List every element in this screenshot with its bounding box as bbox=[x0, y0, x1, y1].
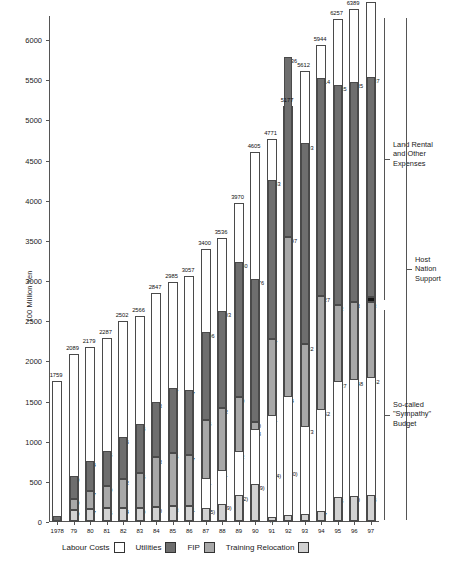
bar-total-label: 4605 bbox=[248, 144, 261, 150]
bar-segment-88-training[interactable] bbox=[218, 504, 226, 521]
bar-total-label: 1759 bbox=[50, 373, 63, 379]
bar-segment-89-fip[interactable] bbox=[235, 397, 243, 452]
bar-segment-84-training[interactable] bbox=[152, 507, 160, 521]
bar-segment-82-utilities[interactable] bbox=[119, 437, 127, 478]
bar-81[interactable] bbox=[102, 338, 112, 522]
bar-segment-85-fip[interactable] bbox=[169, 453, 177, 506]
bar-segment-87-fip[interactable] bbox=[202, 420, 210, 479]
x-tick-mark bbox=[272, 522, 273, 525]
bar-segment-95-training[interactable] bbox=[334, 497, 342, 521]
bar-segment-90-fip[interactable] bbox=[251, 422, 259, 430]
y-tick-label: 3000 bbox=[8, 277, 42, 286]
x-tick-mark bbox=[189, 522, 190, 525]
bar-segment-1978-utilities[interactable] bbox=[53, 516, 61, 521]
bar-segment-90-utilities[interactable] bbox=[251, 279, 259, 422]
bar-segment-82-training[interactable] bbox=[119, 508, 127, 521]
bar-segment-91-training[interactable] bbox=[268, 517, 276, 521]
bar-segment-92-training[interactable] bbox=[284, 515, 292, 522]
bar-segment-86-training[interactable] bbox=[185, 506, 193, 521]
bar-83[interactable] bbox=[135, 316, 145, 522]
legend-label-fip: FIP bbox=[187, 543, 199, 552]
bar-segment-93-utilities[interactable] bbox=[301, 143, 309, 344]
x-tick-mark bbox=[74, 522, 75, 525]
x-tick-mark bbox=[338, 522, 339, 525]
bar-total-label: 2502 bbox=[116, 313, 129, 319]
bar-segment-94-utilities[interactable] bbox=[317, 78, 325, 296]
bar-segment-91-fip[interactable] bbox=[268, 339, 276, 416]
bar-85[interactable] bbox=[168, 282, 178, 522]
bar-segment-83-training[interactable] bbox=[136, 508, 144, 521]
bar-segment-87-training[interactable] bbox=[202, 508, 210, 521]
x-tick-mark bbox=[140, 522, 141, 525]
bar-segment-97-other[interactable] bbox=[367, 297, 375, 302]
bar-segment-86-fip[interactable] bbox=[185, 455, 193, 505]
bar-segment-86-utilities[interactable] bbox=[185, 390, 193, 456]
x-tick-mark bbox=[255, 522, 256, 525]
bar-82[interactable] bbox=[118, 321, 128, 522]
bar-97[interactable] bbox=[366, 2, 376, 522]
bar-segment-94-fip[interactable] bbox=[317, 296, 325, 411]
bar-segment-96-fip[interactable] bbox=[350, 302, 358, 380]
bar-segment-96-utilities[interactable] bbox=[350, 82, 358, 302]
bar-segment-82-fip[interactable] bbox=[119, 479, 127, 508]
bar-93[interactable] bbox=[300, 71, 310, 522]
bar-segment-84-utilities[interactable] bbox=[152, 402, 160, 458]
bar-88[interactable] bbox=[217, 238, 227, 522]
bar-segment-81-fip[interactable] bbox=[103, 486, 111, 508]
bar-segment-96-training[interactable] bbox=[350, 496, 358, 521]
bar-segment-97-fip[interactable] bbox=[367, 302, 375, 379]
bar-segment-95-utilities[interactable] bbox=[334, 85, 342, 305]
bar-total-label: 2179 bbox=[83, 339, 96, 345]
bar-segment-84-fip[interactable] bbox=[152, 457, 160, 506]
bar-total-label: 6389 bbox=[347, 1, 360, 7]
bar-segment-79-training[interactable] bbox=[70, 510, 78, 521]
bar-segment-80-training[interactable] bbox=[86, 509, 94, 521]
bar-94[interactable] bbox=[316, 45, 326, 522]
bar-segment-97-utilities[interactable] bbox=[367, 77, 375, 297]
bar-segment-90-training[interactable] bbox=[251, 484, 259, 521]
bar-89[interactable] bbox=[234, 203, 244, 522]
bracket-pointer-icon bbox=[384, 415, 390, 416]
y-tick-label: 3500 bbox=[8, 237, 42, 246]
bar-90[interactable] bbox=[250, 152, 260, 522]
bar-total-label: 3400 bbox=[198, 241, 211, 247]
bar-segment-83-utilities[interactable] bbox=[136, 424, 144, 473]
bar-segment-85-training[interactable] bbox=[169, 506, 177, 522]
bar-segment-79-fip[interactable] bbox=[70, 499, 78, 510]
bar-segment-93-training[interactable] bbox=[301, 514, 309, 521]
bar-segment-89-utilities[interactable] bbox=[235, 262, 243, 397]
y-tick-label: 4500 bbox=[8, 157, 42, 166]
bar-80[interactable] bbox=[85, 347, 95, 522]
bar-segment-81-utilities[interactable] bbox=[103, 451, 111, 486]
x-tick-mark bbox=[288, 522, 289, 525]
bar-segment-93-fip[interactable] bbox=[301, 344, 309, 427]
bar-segment-79-utilities[interactable] bbox=[70, 476, 78, 498]
bar-segment-91-utilities[interactable] bbox=[268, 180, 276, 339]
bar-87[interactable] bbox=[201, 249, 211, 522]
bar-segment-80-utilities[interactable] bbox=[86, 461, 94, 491]
bar-segment-81-training[interactable] bbox=[103, 508, 111, 521]
bar-segment-92-fip[interactable] bbox=[284, 237, 292, 397]
bar-segment-89-training[interactable] bbox=[235, 495, 243, 521]
bar-79[interactable] bbox=[69, 354, 79, 522]
bar-1978[interactable] bbox=[52, 381, 62, 522]
bar-segment-97-training[interactable] bbox=[367, 495, 375, 521]
bar-segment-80-fip[interactable] bbox=[86, 491, 94, 509]
bar-95[interactable] bbox=[333, 19, 343, 522]
bar-segment-83-fip[interactable] bbox=[136, 473, 144, 508]
bar-86[interactable] bbox=[184, 276, 194, 522]
bar-segment-95-fip[interactable] bbox=[334, 305, 342, 382]
bar-segment-88-fip[interactable] bbox=[218, 408, 226, 472]
bar-segment-85-utilities[interactable] bbox=[169, 388, 177, 453]
bar-84[interactable] bbox=[151, 293, 161, 522]
bar-92[interactable] bbox=[283, 106, 293, 522]
x-tick-mark bbox=[90, 522, 91, 525]
bar-segment-94-training[interactable] bbox=[317, 511, 325, 521]
bar-segment-88-utilities[interactable] bbox=[218, 311, 226, 408]
bar-segment-92-utilities[interactable] bbox=[284, 57, 292, 237]
bar-segment-87-utilities[interactable] bbox=[202, 332, 210, 420]
bar-total-label: 2847 bbox=[149, 285, 162, 291]
x-tick-mark bbox=[57, 522, 58, 525]
bar-91[interactable] bbox=[267, 139, 277, 522]
bar-96[interactable] bbox=[349, 9, 359, 522]
